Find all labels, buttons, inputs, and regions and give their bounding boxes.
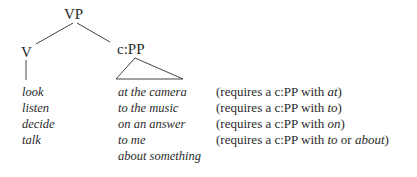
verb-list: look listen decide talk [22,84,55,148]
requirement-prefix: (requires a c:PP with [216,132,327,147]
preposition: about [355,132,385,147]
branch-vp-v [36,23,73,44]
cpp-triangle [116,58,183,79]
requirement-suffix: ) [338,100,342,115]
node-cpp: c:PP [117,42,145,57]
requirement-prefix: (requires a c:PP with [216,84,327,99]
requirement-prefix: (requires a c:PP with [216,116,327,131]
node-vp: VP [64,7,83,22]
requirement-item: (requires a c:PP with at) [216,84,389,100]
preposition: to [327,132,337,147]
requirement-list: (requires a c:PP with at)(requires a c:P… [216,84,389,148]
verb-item: talk [22,132,55,148]
preposition: on [327,116,340,131]
preposition: to [327,100,337,115]
requirement-item: (requires a c:PP with on) [216,116,389,132]
complement-list: at the camera to the music on an answer … [118,84,201,164]
requirement-suffix: ) [385,132,389,147]
requirement-suffix: ) [340,116,344,131]
complement-item: to the music [118,100,201,116]
complement-item: at the camera [118,84,201,100]
requirement-item: (requires a c:PP with to) [216,100,389,116]
node-v: V [21,45,32,60]
verb-item: decide [22,116,55,132]
preposition: at [327,84,337,99]
requirement-prefix: (requires a c:PP with [216,100,327,115]
requirement-item: (requires a c:PP with to or about) [216,132,389,148]
complement-item: to me [118,132,201,148]
verb-item: listen [22,100,55,116]
branch-vp-cpp [77,23,110,42]
complement-item: about something [118,148,201,164]
verb-item: look [22,84,55,100]
complement-item: on an answer [118,116,201,132]
requirement-suffix: ) [338,84,342,99]
connector: or [338,132,355,147]
